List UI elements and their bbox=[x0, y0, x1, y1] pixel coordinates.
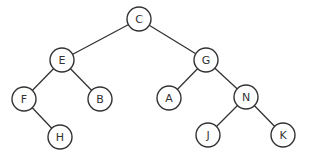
node-label: B bbox=[96, 93, 104, 106]
tree-canvas: CEGFBANHJK bbox=[0, 0, 309, 161]
node-label: C bbox=[135, 13, 143, 26]
node-label: F bbox=[21, 93, 27, 106]
tree-diagram: CEGFBANHJK bbox=[0, 0, 309, 161]
tree-node-K: K bbox=[271, 123, 295, 147]
edges-layer bbox=[24, 19, 283, 137]
tree-node-H: H bbox=[48, 125, 72, 149]
tree-node-F: F bbox=[12, 87, 36, 111]
node-label: N bbox=[242, 91, 250, 104]
node-label: H bbox=[56, 131, 64, 144]
tree-node-C: C bbox=[127, 7, 151, 31]
tree-node-B: B bbox=[88, 87, 112, 111]
node-label: E bbox=[59, 54, 66, 67]
edge-C-E bbox=[62, 19, 139, 60]
tree-node-E: E bbox=[50, 48, 74, 72]
node-label: A bbox=[165, 92, 173, 105]
node-label: G bbox=[202, 54, 211, 67]
node-label: J bbox=[205, 129, 209, 142]
tree-node-J: J bbox=[196, 123, 220, 147]
node-label: K bbox=[279, 129, 287, 142]
tree-node-N: N bbox=[234, 85, 258, 109]
tree-node-G: G bbox=[194, 48, 218, 72]
tree-node-A: A bbox=[157, 86, 181, 110]
